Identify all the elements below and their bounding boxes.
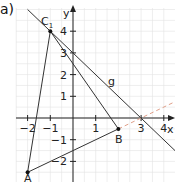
y-tick-label: 4	[60, 25, 67, 38]
axis-ticks: −2−11344321−1−2	[19, 25, 167, 168]
point-b-label: B	[115, 133, 123, 146]
line-g-label: g	[108, 75, 115, 88]
y-tick-label: 2	[60, 69, 67, 82]
point-a-label: A	[24, 172, 32, 182]
y-tick-label: −1	[51, 134, 67, 147]
y-axis-arrow-icon	[70, 5, 76, 12]
x-axis-arrow-icon	[168, 115, 175, 121]
point-b	[116, 127, 120, 131]
x-tick-label: 1	[92, 122, 99, 135]
y-tick-label: 1	[60, 90, 67, 103]
x-tick-label: −2	[19, 122, 35, 135]
coordinate-diagram: −2−11344321−1−2 x y g A B C1	[0, 0, 175, 182]
x-tick-label: 3	[138, 122, 145, 135]
x-axis-label: x	[167, 123, 174, 136]
y-axis-label: y	[63, 7, 70, 20]
point-c1-label: C1	[41, 15, 53, 30]
